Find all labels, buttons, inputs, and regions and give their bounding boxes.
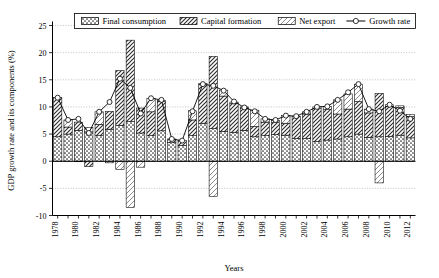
bar-capital-formation (344, 109, 352, 137)
x-tick-label: 2006 (341, 222, 350, 238)
x-tick-label: 1980 (71, 222, 80, 238)
data-point (325, 104, 330, 109)
data-point (169, 136, 174, 141)
legend-marker-icon (353, 18, 358, 23)
x-tick-label: 1992 (196, 222, 205, 238)
data-point (304, 109, 309, 114)
bar-final-consumption (334, 139, 342, 161)
bar-capital-formation (126, 40, 134, 121)
legend-label: Final consumption (103, 16, 167, 26)
bar-capital-formation (188, 120, 196, 136)
bar-capital-formation (292, 116, 300, 138)
legend: Final consumptionCapital formationNet ex… (75, 14, 416, 29)
bar-capital-formation (323, 110, 331, 140)
bar-capital-formation (365, 113, 373, 137)
legend-label: Net export (299, 16, 336, 26)
bar-final-consumption (385, 136, 393, 161)
data-point (159, 97, 164, 102)
y-tick-label: -5 (40, 184, 47, 193)
x-tick-label: 2000 (279, 222, 288, 238)
bar-final-consumption (354, 134, 362, 161)
bar-capital-formation (95, 124, 103, 135)
bar-final-consumption (147, 136, 155, 162)
bar-final-consumption (126, 122, 134, 162)
bar-net-export (137, 161, 145, 167)
bar-final-consumption (168, 143, 176, 161)
data-point (314, 104, 319, 109)
data-point (200, 82, 205, 87)
x-tick-label: 1986 (134, 222, 143, 238)
data-point (377, 109, 382, 114)
bar-final-consumption (137, 133, 145, 161)
data-point (180, 138, 185, 143)
bar-capital-formation (64, 127, 72, 134)
bar-capital-formation (261, 122, 269, 136)
data-point (97, 109, 102, 114)
bar-final-consumption (292, 138, 300, 161)
x-tick-label: 1984 (113, 222, 122, 238)
bar-final-consumption (157, 131, 165, 161)
bar-capital-formation (282, 123, 290, 135)
bar-net-export (396, 106, 404, 108)
data-point (211, 83, 216, 88)
x-tick-label: 1994 (217, 222, 226, 238)
y-tick-label: 10 (39, 103, 47, 112)
bar-capital-formation (157, 102, 165, 131)
data-point (335, 97, 340, 102)
bar-net-export (375, 161, 383, 183)
bar-final-consumption (302, 138, 310, 161)
data-point (117, 76, 122, 81)
legend-swatch-capital-formation (180, 17, 197, 24)
x-tick-label: 2012 (403, 222, 412, 238)
bar-final-consumption (323, 140, 331, 161)
y-tick-label: 15 (39, 76, 47, 85)
bar-final-consumption (188, 136, 196, 162)
bar-final-consumption (396, 135, 404, 161)
bar-net-export (126, 161, 134, 207)
y-axis-title: GDP growth rate and its components (%) (6, 50, 16, 191)
bar-final-consumption (406, 138, 414, 161)
x-tick-label: 1996 (237, 222, 246, 238)
bar-final-consumption (344, 137, 352, 161)
y-tick-label: 0 (43, 157, 47, 166)
legend-label: Growth rate (369, 16, 410, 26)
bar-final-consumption (74, 130, 82, 161)
bar-capital-formation (375, 93, 383, 136)
bar-final-consumption (85, 132, 93, 161)
y-tick-label: 25 (39, 22, 47, 31)
data-point (387, 102, 392, 107)
bar-capital-formation (385, 106, 393, 136)
bar-capital-formation (147, 112, 155, 136)
bar-final-consumption (64, 134, 72, 161)
bar-net-export (344, 94, 352, 109)
bar-capital-formation (302, 114, 310, 138)
data-point (128, 85, 133, 90)
bar-final-consumption (95, 136, 103, 162)
data-point (356, 82, 361, 87)
data-point (408, 116, 413, 121)
bar-final-consumption (230, 132, 238, 161)
data-point (138, 111, 143, 116)
bar-final-consumption (240, 130, 248, 161)
bar-capital-formation (219, 96, 227, 131)
bar-final-consumption (251, 137, 259, 161)
y-tick-label: 5 (43, 130, 47, 139)
data-point (283, 113, 288, 118)
data-point (107, 100, 112, 105)
bar-capital-formation (209, 56, 217, 128)
bar-final-consumption (209, 129, 217, 162)
bar-capital-formation (199, 84, 207, 124)
data-point (55, 95, 60, 100)
bar-final-consumption (271, 135, 279, 162)
data-point (190, 109, 195, 114)
x-tick-label: 2004 (320, 222, 329, 238)
data-point (252, 109, 257, 114)
bar-capital-formation (313, 109, 321, 142)
legend-swatch-final-consumption (82, 17, 99, 24)
data-point (149, 96, 154, 101)
bar-net-export (116, 161, 124, 169)
bar-final-consumption (261, 136, 269, 162)
bar-final-consumption (365, 137, 373, 161)
x-tick-label: 1998 (258, 222, 267, 238)
bar-final-consumption (313, 142, 321, 162)
